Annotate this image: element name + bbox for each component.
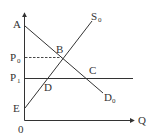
point-e-label: E	[13, 102, 20, 114]
origin-label: 0	[18, 123, 24, 135]
p1-subscript: 1	[17, 77, 21, 85]
supply-label: S	[91, 10, 97, 22]
p0-label: P	[10, 51, 16, 63]
demand-subscript: 0	[112, 97, 116, 105]
supply-subscript: 0	[98, 16, 102, 24]
p1-label: P	[10, 71, 16, 83]
point-b-label: B	[56, 43, 63, 55]
demand-curve	[25, 26, 103, 93]
supply-demand-diagram: A B C D E P 0 P 1 S 0 D 0 Q 0	[0, 0, 154, 139]
p0-subscript: 0	[17, 57, 21, 65]
x-axis-label: Q	[138, 114, 146, 126]
point-d-label: D	[44, 81, 52, 93]
demand-label: D	[104, 91, 112, 103]
point-c-label: C	[89, 64, 96, 76]
point-a-label: A	[13, 18, 21, 30]
